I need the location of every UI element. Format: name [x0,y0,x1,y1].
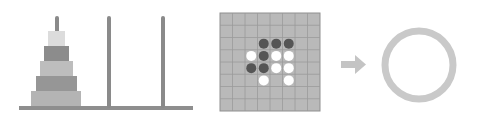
white-piece [271,63,281,73]
hanoi-peg-3 [161,16,165,108]
black-piece [284,39,294,49]
white-piece [271,51,281,61]
empty-circle [385,31,453,99]
black-piece [259,63,269,73]
white-piece [284,63,294,73]
hanoi-disk-2 [44,46,69,61]
arrow-right-icon [341,55,366,74]
white-piece [284,51,294,61]
white-piece [259,75,269,85]
hanoi-peg-2 [107,16,111,108]
diagram-canvas [0,0,478,121]
hanoi-base [19,106,193,110]
tower-of-hanoi [19,16,193,110]
black-piece [259,39,269,49]
hanoi-disk-3 [40,61,73,76]
black-piece [259,51,269,61]
hanoi-disk-5 [31,91,81,106]
othello-board [220,13,320,111]
hanoi-disk-4 [36,76,77,91]
white-piece [246,51,256,61]
black-piece [271,39,281,49]
hanoi-disk-1 [48,31,65,46]
white-piece [284,75,294,85]
black-piece [246,63,256,73]
